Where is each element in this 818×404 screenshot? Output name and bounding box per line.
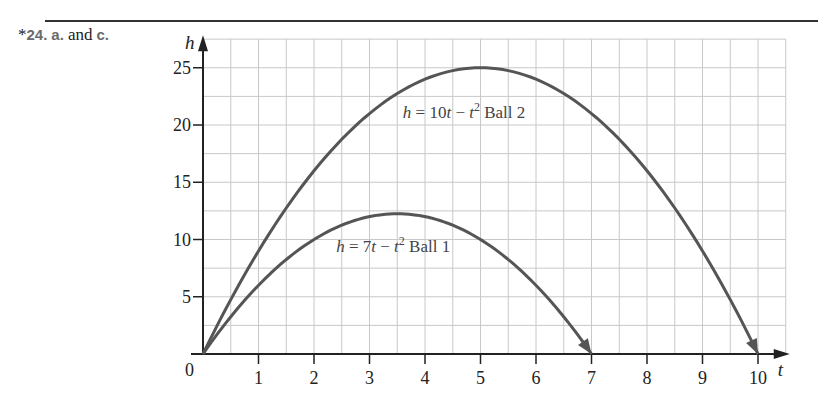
problem-label: *24.a.andc. [18,25,109,44]
x-tick-label: 3 [365,368,374,388]
axes: ht [185,32,790,380]
x-tick-label: 7 [587,368,596,388]
x-tick-label: 5 [476,368,485,388]
y-tick-label: 20 [173,115,191,135]
curve-arrow-icon [578,338,591,354]
x-tick-label: 1 [254,368,263,388]
y-tick-label: 15 [173,172,191,192]
origin-label: 0 [185,360,194,380]
curve-annotations: h = 7t − t2 Ball 1h = 10t − t2 Ball 2 [336,100,525,256]
x-tick-label: 10 [749,368,767,388]
y-axis-arrow-icon [198,35,208,51]
grid [203,39,786,354]
annotation-ball-2: h = 10t − t2 Ball 2 [403,100,526,122]
curve-arrow-icon [746,338,758,354]
y-axis-label: h [185,32,195,53]
chart: *24.a.andc. ht 123456789105101520250 h =… [0,0,818,404]
x-tick-label: 4 [421,368,430,388]
x-tick-label: 8 [643,368,652,388]
y-tick-label: 5 [182,287,191,307]
y-tick-label: 25 [173,58,191,78]
x-tick-label: 6 [532,368,541,388]
x-tick-label: 9 [698,368,707,388]
y-tick-label: 10 [173,230,191,250]
x-tick-label: 2 [310,368,319,388]
x-axis-label: t [778,359,784,380]
annotation-ball-1: h = 7t − t2 Ball 1 [336,234,450,256]
x-axis-arrow-icon [774,349,790,359]
